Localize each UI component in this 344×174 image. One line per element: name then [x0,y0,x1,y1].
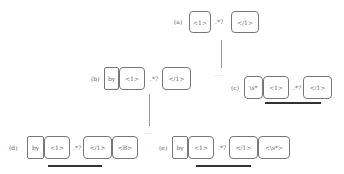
wildcard: .*? [150,75,158,83]
wildcard: .*? [73,144,81,152]
node-d-label: (d) [9,144,18,152]
token-open-1: <1> [189,11,211,33]
edge-b-to-e [149,94,150,126]
node-e-underline [196,165,251,167]
wildcard: .*? [215,18,223,26]
token-whitespace-tag: <\s*> [258,136,290,159]
token-by: by [27,136,44,159]
node-c-underline [265,102,321,104]
token-close-1: </1> [162,67,191,90]
ellipsis-a: ... [215,71,224,77]
token-by: by [172,136,188,159]
wildcard: .*? [218,144,226,152]
token-bold: <B> [112,136,138,159]
ellipsis-b: ... [144,129,153,135]
token-close-1: </1> [83,136,112,159]
wildcard: .*? [293,84,301,92]
token-open-1: <1> [119,67,145,90]
node-c-label: (c) [231,84,239,92]
token-open-1: <1> [263,76,289,99]
token-whitespace: \s* [244,76,263,99]
node-b-label: (b) [91,75,100,83]
token-close-1: </1> [303,76,332,99]
edge-a-to-c [221,40,222,68]
token-close-1: </1> [231,11,259,33]
node-a-label: (a) [174,18,182,26]
node-e-label: (e) [159,144,167,152]
token-open-1: <1> [44,136,70,159]
token-close-1: </1> [229,136,258,159]
node-d-underline [48,165,102,167]
token-by: by [104,67,119,90]
token-open-1: <1> [188,136,214,159]
